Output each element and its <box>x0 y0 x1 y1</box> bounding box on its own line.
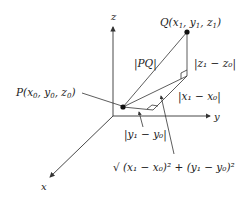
label-dy: |y₁ − y₀| <box>124 128 167 142</box>
distance-diagram: z y x Q(x1, y1, z1) P(x0, y0, z0) |PQ| |… <box>0 0 244 202</box>
label-diagonal: √ (x₁ − x₀)² + (y₁ − y₀)² <box>113 161 235 173</box>
point-q <box>184 29 189 34</box>
x-axis-label: x <box>41 181 47 192</box>
y-axis-label: y <box>213 111 220 122</box>
leader-dy <box>139 112 143 127</box>
label-dx: |x₁ − x₀| <box>178 90 221 104</box>
point-p <box>120 104 125 109</box>
label-dz: |z₁ − z₀| <box>194 57 236 71</box>
label-pq: |PQ| <box>134 57 157 71</box>
z-axis-label: z <box>110 11 117 22</box>
x-axis <box>50 116 113 177</box>
point-p-label: P(x0, y0, z0) <box>15 86 75 100</box>
leader-diag <box>161 96 174 154</box>
axes <box>50 27 210 177</box>
point-q-label: Q(x1, y1, z1) <box>160 16 221 30</box>
leader-p <box>82 93 122 106</box>
